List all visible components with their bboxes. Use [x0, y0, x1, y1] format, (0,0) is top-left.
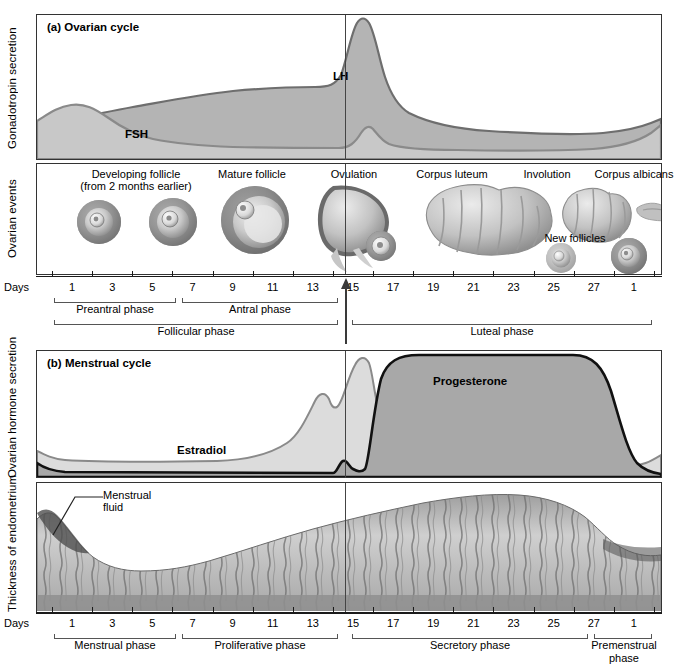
axis-tick	[574, 607, 575, 613]
axis-tick	[654, 607, 655, 613]
event-label-developing-follicle-sub: (from 2 months earlier)	[80, 180, 191, 192]
axis-tick	[172, 271, 173, 277]
event-label-developing-follicle-main: Developing follicle	[92, 168, 181, 180]
axis-tick	[453, 271, 454, 277]
axis-tick	[373, 271, 374, 277]
axis-tick	[132, 607, 133, 613]
day-label-7: 7	[185, 281, 201, 293]
day-label-21: 21	[465, 617, 481, 629]
day-label-17: 17	[385, 281, 401, 293]
event-label-developing-follicle: Developing follicle (from 2 months earli…	[61, 168, 211, 192]
axis-tick	[413, 271, 414, 277]
day-label-23: 23	[506, 617, 522, 629]
axis-tick	[52, 271, 53, 277]
menstrual-fluid-label-main: Menstrual	[103, 489, 151, 501]
day-label-9: 9	[225, 281, 241, 293]
hormone-curves	[37, 351, 661, 477]
day-label-19: 19	[425, 617, 441, 629]
day-label-21: 21	[465, 281, 481, 293]
panel-a-title: (a) Ovarian cycle	[47, 21, 139, 33]
progesterone-curve-label: Progesterone	[433, 375, 507, 387]
axis-label-endometrium: Thickness of endometrium	[6, 482, 20, 612]
axis-tick	[453, 607, 454, 613]
day-label-3: 3	[104, 617, 120, 629]
fsh-curve-label: FSH	[125, 128, 148, 140]
endometrium-basal-layer	[37, 595, 661, 611]
day-label-1: 1	[626, 617, 642, 629]
axis-label-ovarian-events: Ovarian events	[6, 163, 20, 275]
axis-tick	[574, 271, 575, 277]
axis-tick	[614, 271, 615, 277]
day-label-13: 13	[305, 281, 321, 293]
bottom-days-word: Days	[4, 617, 29, 629]
day-label-13: 13	[305, 617, 321, 629]
axis-tick	[253, 607, 254, 613]
day-label-5: 5	[144, 281, 160, 293]
event-label-new-follicles: New follicles	[523, 232, 627, 244]
follicle-illustration-2	[149, 198, 197, 246]
phase-label-menstrual: Menstrual phase	[54, 639, 176, 651]
ovulation-marker-line-panel-a	[345, 15, 346, 160]
day-label-5: 5	[144, 617, 160, 629]
mature-follicle-illustration	[221, 186, 289, 254]
event-label-corpus-luteum: Corpus luteum	[397, 168, 507, 180]
axis-tick	[253, 271, 254, 277]
day-label-11: 11	[265, 281, 281, 293]
panel-a-ovarian-events: Developing follicle (from 2 months earli…	[36, 163, 662, 275]
menstrual-fluid-label: Menstrual fluid	[103, 489, 177, 513]
axis-tick	[373, 607, 374, 613]
panel-a-gonadotropin-plot: (a) Ovarian cycle LH FSH	[36, 14, 662, 160]
corpus-albicans-illustration	[637, 203, 661, 221]
day-label-27: 27	[586, 617, 602, 629]
day-label-25: 25	[546, 281, 562, 293]
reproductive-cycle-figure: Gonadotropin secretion (a) Ovarian cycle…	[0, 0, 682, 672]
event-label-ovulation: Ovulation	[309, 168, 399, 180]
axis-tick	[534, 271, 535, 277]
panel-b-title: (b) Menstrual cycle	[47, 357, 151, 369]
axis-tick	[614, 607, 615, 613]
axis-tick	[493, 607, 494, 613]
day-label-7: 7	[185, 617, 201, 629]
phase-label-luteal: Luteal phase	[352, 325, 652, 337]
phase-label-antral: Antral phase	[182, 303, 338, 315]
bottom-day-axis-line	[36, 612, 662, 614]
new-follicle-illustration-1	[546, 243, 576, 273]
day-label-17: 17	[385, 617, 401, 629]
panel-b-hormone-plot: (b) Menstrual cycle Estradiol Progestero…	[36, 350, 662, 478]
axis-tick	[413, 607, 414, 613]
event-label-mature-follicle: Mature follicle	[197, 168, 307, 180]
axis-label-ovarian-hormone: Ovarian hormone secretion	[6, 350, 20, 478]
ovulation-marker-line-axis	[345, 298, 347, 344]
ovulation-illustration	[318, 185, 396, 272]
ovulation-marker-line-events	[345, 164, 346, 274]
event-label-corpus-albicans: Corpus albicans	[581, 168, 682, 180]
axis-tick	[52, 607, 53, 613]
axis-tick	[92, 271, 93, 277]
axis-tick	[293, 271, 294, 277]
axis-tick	[293, 607, 294, 613]
axis-tick	[92, 607, 93, 613]
phase-label-follicular: Follicular phase	[54, 325, 338, 337]
axis-tick	[493, 271, 494, 277]
axis-tick	[132, 271, 133, 277]
axis-tick	[172, 607, 173, 613]
axis-tick	[654, 271, 655, 277]
axis-tick	[333, 607, 334, 613]
phase-label-secretory: Secretory phase	[352, 639, 588, 651]
panel-b-endometrium: Menstrual fluid	[36, 482, 662, 612]
axis-tick	[333, 271, 334, 277]
day-label-1: 1	[64, 281, 80, 293]
day-label-3: 3	[104, 281, 120, 293]
day-label-9: 9	[225, 617, 241, 629]
axis-tick	[213, 607, 214, 613]
day-label-1: 1	[64, 617, 80, 629]
phase-label-premenstrual: Premenstrualphase	[586, 639, 662, 665]
day-label-27: 27	[586, 281, 602, 293]
phase-label-proliferative: Proliferative phase	[182, 639, 338, 651]
top-days-word: Days	[4, 281, 29, 293]
corpus-luteum-illustration	[426, 185, 552, 255]
menstrual-fluid-label-sub: fluid	[103, 501, 123, 513]
day-label-25: 25	[546, 617, 562, 629]
axis-tick	[534, 607, 535, 613]
ovulation-marker-line-endometrium	[345, 483, 346, 612]
